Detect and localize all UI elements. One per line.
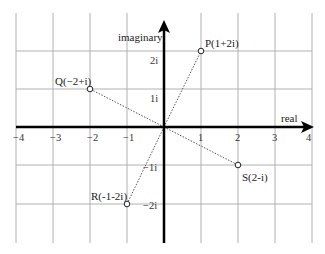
point-label: P(1+2i) <box>205 37 239 50</box>
x-tick: −3 <box>50 132 61 143</box>
x-tick: 3 <box>272 132 277 143</box>
x-tick: 1 <box>198 132 203 143</box>
x-axis-label: real <box>281 112 297 124</box>
x-tick: −1 <box>123 132 134 143</box>
x-tick: 2 <box>235 132 240 143</box>
y-axis <box>158 20 170 243</box>
y-tick: −2i <box>143 200 157 211</box>
point-label: Q(−2+i) <box>55 75 92 88</box>
point-label: R(-1-2i) <box>91 190 127 203</box>
y-tick: 2i <box>150 55 158 66</box>
complex-plane-diagram: imaginary real −4 −3 −2 −1 1 2 3 4 2i 1i… <box>0 0 325 254</box>
x-tick: 4 <box>306 132 312 143</box>
x-tick: −2 <box>87 132 98 143</box>
y-tick: 1i <box>150 93 158 104</box>
x-tick: −4 <box>13 132 25 143</box>
point-label: S(2-i) <box>242 171 268 184</box>
y-axis-label: imaginary <box>118 31 163 43</box>
y-tick: −1i <box>143 162 157 173</box>
